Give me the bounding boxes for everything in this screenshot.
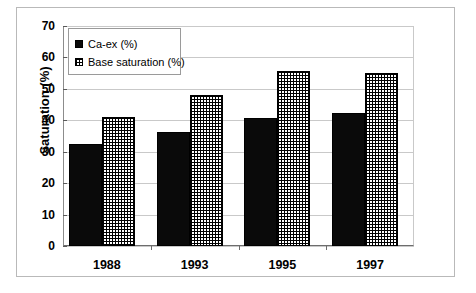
bar-1995-base-saturation <box>277 71 310 246</box>
y-tick-label: 20 <box>15 176 55 190</box>
bar-1993-base-saturation <box>190 95 223 246</box>
bar-chart-figure: Saturation (%) 706050403020100 198819931… <box>0 0 476 293</box>
bar-1988-ca-ex <box>69 144 102 246</box>
legend-label-ca-ex: Ca-ex (%) <box>88 38 138 50</box>
x-tick-mark <box>239 245 240 250</box>
gridline <box>63 89 414 90</box>
y-tick-label: 40 <box>15 113 55 127</box>
y-tick-mark <box>63 26 67 27</box>
chart-legend: Ca-ex (%) Base saturation (%) <box>68 28 181 75</box>
x-tick-label-1995: 1995 <box>238 258 326 272</box>
gridline <box>63 26 414 27</box>
y-tick-label: 70 <box>15 19 55 33</box>
y-tick-label: 10 <box>15 208 55 222</box>
y-tick-mark <box>63 57 67 58</box>
bar-1988-base-saturation <box>102 117 135 246</box>
y-tick-label: 0 <box>15 239 55 253</box>
legend-label-base-saturation: Base saturation (%) <box>88 56 185 68</box>
legend-swatch-solid-icon <box>75 40 83 48</box>
y-tick-mark <box>63 215 67 216</box>
y-tick-mark <box>63 183 67 184</box>
y-tick-label: 30 <box>15 145 55 159</box>
y-tick-mark <box>63 246 67 247</box>
bar-1995-ca-ex <box>244 118 277 246</box>
x-tick-label-1988: 1988 <box>63 258 151 272</box>
y-tick-label: 60 <box>15 50 55 64</box>
x-tick-label-1993: 1993 <box>151 258 239 272</box>
bar-1997-ca-ex <box>332 113 365 246</box>
bar-1993-ca-ex <box>157 132 190 246</box>
legend-swatch-crosshatch-icon <box>75 58 83 66</box>
y-tick-mark <box>63 120 67 121</box>
x-tick-mark <box>151 245 152 250</box>
y-tick-mark <box>63 89 67 90</box>
legend-item-base-saturation: Base saturation (%) <box>75 53 174 70</box>
x-tick-label-1997: 1997 <box>326 258 414 272</box>
y-tick-mark <box>63 152 67 153</box>
y-tick-label: 50 <box>15 82 55 96</box>
bar-1997-base-saturation <box>365 73 398 246</box>
legend-item-ca-ex: Ca-ex (%) <box>75 35 174 52</box>
x-tick-mark <box>326 245 327 250</box>
